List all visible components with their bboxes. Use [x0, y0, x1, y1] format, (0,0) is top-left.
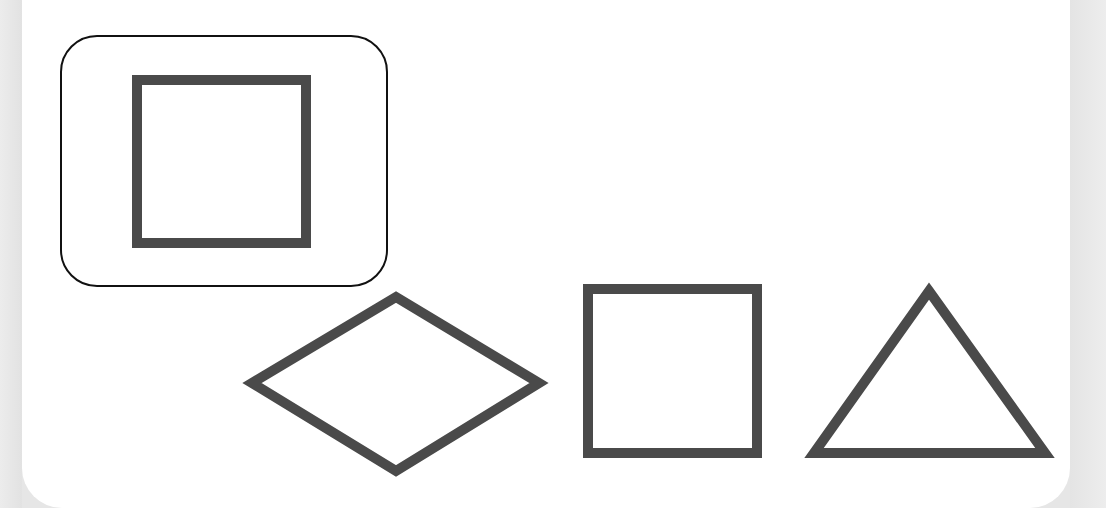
option-triangle[interactable]: [814, 291, 1045, 453]
square-outline-icon: [588, 289, 757, 453]
selection-frame: [61, 36, 387, 286]
option-diamond[interactable]: [252, 297, 539, 471]
diamond-outline-icon: [252, 297, 539, 471]
option-square[interactable]: [588, 289, 757, 453]
shape-stage: [0, 0, 1106, 508]
target-shape-group[interactable]: [61, 36, 387, 286]
square-outline-icon: [137, 80, 306, 243]
triangle-outline-icon: [814, 291, 1045, 453]
